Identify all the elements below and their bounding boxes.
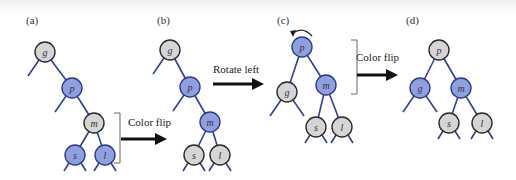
tree-node-label: s (73, 150, 77, 161)
null-link-stub (55, 96, 66, 112)
rotate-curve-arrowhead-icon (290, 30, 296, 37)
tree-node-label: m (457, 83, 464, 94)
null-link-stub (28, 60, 39, 76)
red-black-tree-figure: (a) (b) (c) (d) Color flip Rotate left C… (0, 0, 516, 180)
tree-node-label: s (447, 118, 451, 129)
null-link-stub (209, 163, 214, 171)
null-link-stub (488, 131, 493, 139)
null-link-stub (94, 163, 99, 171)
tree-node-label: l (341, 122, 344, 133)
null-link-stub (322, 135, 327, 143)
null-link-stub (438, 131, 443, 139)
tree-diagram-canvas: gpmslgpmslpgmslpgmsl (0, 0, 516, 180)
rotate-curve-icon (293, 30, 312, 36)
null-link-stub (153, 58, 164, 74)
null-link-stub (331, 135, 336, 143)
null-link-stub (403, 96, 414, 112)
null-link-stub (305, 135, 310, 143)
null-link-stub (64, 163, 69, 171)
arrow-rotate-left-head (252, 78, 264, 90)
tree-node-label: p (69, 83, 75, 94)
null-link-stub (455, 131, 460, 139)
tree-node-label: g (168, 45, 173, 56)
tree-node-label: p (436, 45, 442, 56)
arrow-color-flip-2-head (386, 69, 398, 81)
null-link-stub (81, 163, 86, 171)
tree-node-label: p (299, 42, 305, 53)
tree-node-label: l (104, 150, 107, 161)
null-link-stub (348, 135, 353, 143)
tree-node-label: m (90, 118, 97, 129)
tree-node-label: s (314, 122, 318, 133)
null-link-stub (270, 100, 281, 116)
tree-node-label: g (43, 47, 48, 58)
null-link-stub (293, 100, 304, 116)
tree-node-label: m (322, 80, 329, 91)
tree-node-label: m (206, 117, 213, 128)
bracket-c (351, 40, 357, 94)
arrow-color-flip-1-head (155, 133, 167, 145)
tree-node-label: l (481, 118, 484, 129)
null-link-stub (226, 163, 231, 171)
null-link-stub (183, 163, 188, 171)
tree-node-label: l (219, 150, 222, 161)
tree-node-label: s (192, 150, 196, 161)
null-link-stub (471, 131, 476, 139)
null-link-stub (200, 163, 205, 171)
null-link-stub (426, 96, 437, 112)
null-link-stub (173, 95, 184, 111)
tree-node-label: p (187, 82, 193, 93)
null-link-stub (111, 163, 116, 171)
tree-node-label: g (418, 83, 423, 94)
tree-node-label: g (285, 87, 290, 98)
